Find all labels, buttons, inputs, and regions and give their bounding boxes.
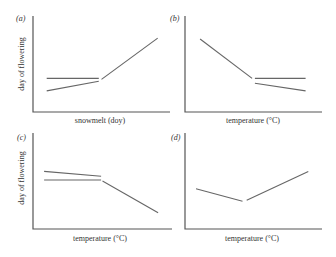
- plot-area: [33, 16, 170, 112]
- series-line-descending-segment: [200, 39, 252, 78]
- x-axis-label: snowmelt (doy): [75, 116, 126, 125]
- series-line-descending-segment: [103, 181, 159, 213]
- panel-label: (d): [171, 133, 181, 142]
- figure: (a) day of flowering snowmelt (doy) (b) …: [0, 0, 336, 257]
- series-line-descending-segment: [196, 189, 243, 202]
- x-axis-label: temperature (°C): [225, 234, 279, 243]
- y-axis-label: day of flowering: [17, 37, 26, 90]
- plot-area: [33, 133, 172, 229]
- axes: [33, 16, 170, 112]
- panel-a: (a) day of flowering snowmelt (doy): [16, 14, 170, 125]
- panel-label: (c): [17, 133, 26, 142]
- panel-b: (b) temperature (°C): [170, 14, 322, 125]
- series-line-lower-segment: [47, 81, 99, 91]
- plot-area: [185, 16, 322, 112]
- panel-label: (b): [170, 14, 180, 23]
- series-line-lower-segment: [255, 83, 306, 91]
- y-axis-label: day of flowering: [17, 151, 26, 204]
- panel-label: (a): [16, 14, 26, 23]
- x-axis-label: temperature (°C): [226, 116, 280, 125]
- panel-d: (d) temperature (°C): [171, 133, 322, 243]
- series-line-rising-segment: [247, 171, 309, 200]
- plot-area: [185, 133, 322, 229]
- series-line-rising-segment: [102, 38, 158, 79]
- series-line-upper-segment: [44, 171, 101, 176]
- panel-c: (c) day of flowering temperature (°C): [17, 133, 172, 243]
- axes: [185, 133, 322, 229]
- x-axis-label: temperature (°C): [73, 234, 127, 243]
- axes: [185, 16, 322, 112]
